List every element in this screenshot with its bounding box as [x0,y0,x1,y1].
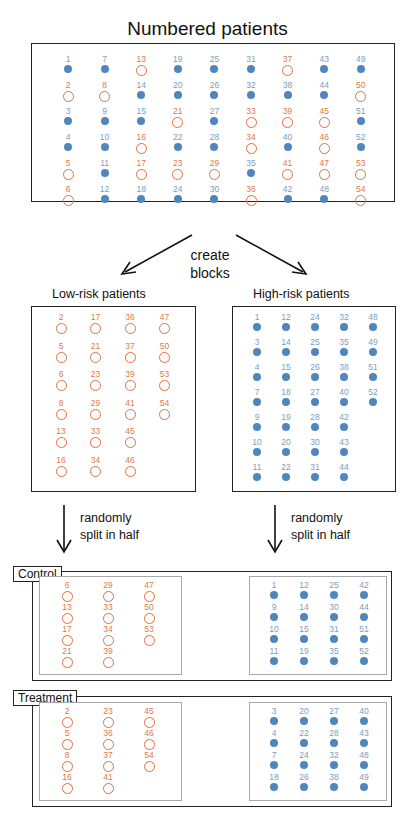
patient-number: 42 [349,581,379,590]
patient-28: 28 [300,413,330,431]
patient-54: 54 [134,751,164,772]
patient-43: 43 [349,729,379,747]
patient-number: 41 [93,773,123,782]
patient-4: 4 [259,729,289,747]
filled-dot-icon [300,613,308,621]
patient-number: 53 [150,370,180,379]
patient-number: 36 [93,729,123,738]
patient-number: 9 [242,413,272,422]
patient-number: 17 [52,625,82,634]
patient-27: 27 [300,388,330,406]
open-circle-icon [62,591,73,602]
patient-50: 50 [134,603,164,624]
control-high-risk-box: 191011121415192530313542445152 [249,576,387,675]
patient-24: 24 [289,751,319,769]
patient-number: 7 [259,751,289,760]
patient-number: 28 [319,729,349,738]
filled-dot-icon [270,739,278,747]
create-blocks-label: create blocks [170,246,250,282]
patient-number: 48 [358,313,388,322]
patient-number: 54 [150,399,180,408]
filled-dot-icon [330,635,338,643]
patient-37: 37 [93,751,123,772]
open-circle-icon [62,717,73,728]
open-circle-icon [56,380,67,391]
open-circle-icon [90,466,101,477]
open-circle-icon [125,380,136,391]
open-circle-icon [56,352,67,363]
filled-dot-icon [311,473,319,481]
patient-27: 27 [319,707,349,725]
patient-15: 15 [271,363,301,381]
filled-dot-icon [360,657,368,665]
open-circle-icon [159,380,170,391]
patient-33: 33 [93,603,123,624]
patient-1: 1 [259,581,289,599]
patient-16: 16 [46,456,76,477]
filled-dot-icon [330,657,338,665]
patient-number: 25 [300,338,330,347]
patient-36: 36 [93,729,123,750]
filled-dot-icon [340,373,348,381]
patient-number: 33 [81,427,111,436]
patient-26: 26 [289,773,319,791]
filled-dot-icon [253,473,261,481]
patient-number: 18 [271,388,301,397]
patient-29: 29 [93,581,123,602]
patient-number: 5 [46,342,76,351]
open-circle-icon [103,591,114,602]
open-circle-icon [144,717,155,728]
patient-number: 4 [242,363,272,372]
open-circle-icon [125,466,136,477]
patient-19: 19 [271,413,301,431]
patient-46: 46 [115,456,145,477]
patient-number: 34 [93,625,123,634]
low-risk-box: 2568131617212329333436373941454647505354 [31,306,196,492]
patient-number: 43 [349,729,379,738]
patient-number: 12 [289,581,319,590]
patient-23: 23 [93,707,123,728]
open-circle-icon [103,739,114,750]
open-circle-icon [56,466,67,477]
patient-12: 12 [289,581,319,599]
patient-number: 12 [271,313,301,322]
patient-25: 25 [300,338,330,356]
open-circle-icon [103,613,114,624]
patient-44: 44 [349,603,379,621]
patient-number: 50 [134,603,164,612]
patient-5: 5 [52,729,82,750]
patient-number: 4 [259,729,289,738]
patient-44: 44 [329,463,359,481]
open-circle-icon [62,657,73,668]
patient-number: 47 [150,313,180,322]
patient-number: 30 [300,438,330,447]
patient-number: 26 [289,773,319,782]
filled-dot-icon [330,591,338,599]
patient-14: 14 [289,603,319,621]
patient-42: 42 [329,413,359,431]
patient-number: 39 [93,647,123,656]
patient-number: 40 [349,707,379,716]
filled-dot-icon [369,348,377,356]
patient-number: 13 [46,427,76,436]
filled-dot-icon [340,323,348,331]
open-circle-icon [144,635,155,646]
filled-dot-icon [282,323,290,331]
open-circle-icon [144,739,155,750]
patient-number: 14 [289,603,319,612]
patient-36: 36 [115,313,145,334]
patient-52: 52 [358,388,388,406]
patient-number: 26 [300,363,330,372]
patient-3: 3 [259,707,289,725]
open-circle-icon [103,717,114,728]
filled-dot-icon [360,783,368,791]
filled-dot-icon [330,739,338,747]
patient-number: 38 [329,363,359,372]
patient-number: 16 [46,456,76,465]
patient-32: 32 [329,313,359,331]
split-line-1: randomly [80,510,139,527]
patient-number: 22 [271,463,301,472]
patient-5: 5 [46,342,76,363]
open-circle-icon [90,437,101,448]
patient-29: 29 [81,399,111,420]
